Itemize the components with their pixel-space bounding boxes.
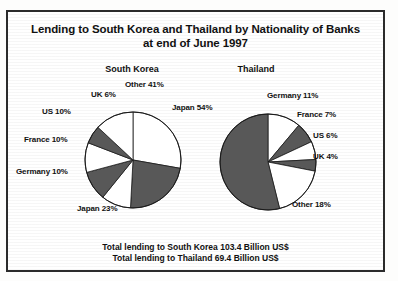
footer-total-thailand: Total lending to Thailand 69.4 Billion U… [8,253,383,264]
pie-svg-thailand [218,112,318,212]
chart-frame: Lending to South Korea and Thailand by N… [6,10,385,272]
pie-svg-south-korea [83,110,183,210]
chart-heading-south-korea: South Korea [84,64,180,74]
pie-label-germany-11: Germany 11% [267,91,318,100]
pie-chart-south-korea [83,110,183,210]
pie-label-other-18: Other 18% [292,200,331,209]
chart-heading-thailand: Thailand [208,64,304,74]
pie-slice-japan [133,112,181,168]
pie-slice-japan23 [130,160,180,208]
pie-label-germany-10: Germany 10% [16,167,68,176]
pie-label-other-41: Other 41% [125,80,164,89]
pie-label-japan-23: Japan 23% [77,204,117,213]
chart-footer: Total lending to South Korea 103.4 Billi… [8,242,383,264]
pie-label-japan-54: Japan 54% [172,103,212,112]
pie-label-uk-4: UK 4% [313,152,338,161]
pie-label-us-6: US 6% [313,131,337,140]
footer-total-south-korea: Total lending to South Korea 103.4 Billi… [8,242,383,253]
pie-label-uk-6: UK 6% [91,90,116,99]
pie-chart-thailand [218,112,318,212]
pie-label-france-7: France 7% [297,110,336,119]
title-line-2: at end of June 1997 [8,36,383,50]
title-line-1: Lending to South Korea and Thailand by N… [31,23,360,35]
page-title: Lending to South Korea and Thailand by N… [8,22,383,50]
pie-label-france-10: France 10% [24,135,67,144]
pie-label-us-10: US 10% [42,107,71,116]
